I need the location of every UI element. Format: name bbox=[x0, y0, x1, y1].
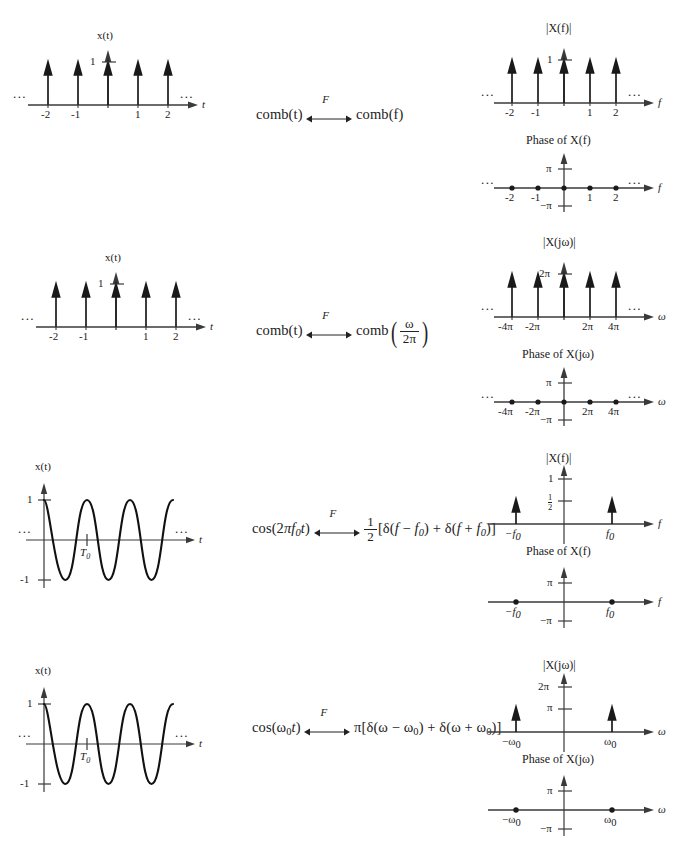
transform-pair-row-1: x(t) t 1 -2 -1 1 2 ... ... comb(t) F com… bbox=[0, 0, 676, 216]
row1-phase-xtick--2: -2 bbox=[505, 191, 514, 203]
row3-magnitude-ytick-1: 1 bbox=[548, 472, 554, 484]
transform-pair-row-2: x(t) t 1 -2 -1 1 2 ... ... comb(t) F com… bbox=[0, 216, 676, 432]
left-paren: ( bbox=[391, 318, 397, 346]
row1-phase-ytick-negpi: −π bbox=[540, 199, 552, 211]
row2-fraction-numerator: ω bbox=[400, 317, 419, 331]
row2-time-left-ellipsis: ... bbox=[21, 308, 35, 324]
row1-phase-xtick-1: 1 bbox=[587, 191, 593, 203]
row2-magnitude-right-ellipsis: ... bbox=[628, 298, 642, 314]
row2-time-xtick--1: -1 bbox=[79, 330, 88, 342]
row2-magnitude-left-ellipsis: ... bbox=[481, 298, 495, 314]
row3-phase-xtick--f0: −f0 bbox=[505, 605, 521, 620]
row4-time-right-ellipsis: ... bbox=[175, 725, 189, 741]
row4-operator-label: F bbox=[320, 706, 327, 718]
row3-time-y-label: x(t) bbox=[35, 460, 51, 472]
row3-time-plot: x(t) t 1 -1 T0 ... ... bbox=[18, 470, 218, 600]
row1-equation-lhs: comb(t) bbox=[256, 106, 303, 122]
fourier-arrow-icon: F bbox=[304, 721, 350, 736]
row1-magnitude-xtick--2: -2 bbox=[505, 106, 514, 118]
row3-magnitude-ytick-half: 12 bbox=[548, 493, 552, 512]
row1-magnitude-left-ellipsis: ... bbox=[481, 84, 495, 100]
row3-equation-lhs: cos(2πf0t) bbox=[252, 520, 310, 536]
cos-phase-svg bbox=[486, 562, 676, 640]
row2-magnitude-xtick--4pi: -4π bbox=[498, 320, 513, 332]
row1-time-xtick--1: -1 bbox=[71, 108, 80, 120]
row4-time-ytick-1: 1 bbox=[27, 697, 33, 709]
row4-time-y-label: x(t) bbox=[35, 664, 51, 676]
row4-phase-ytick-pi: π bbox=[547, 784, 553, 796]
row3-phase-xtick-f0: f0 bbox=[606, 605, 614, 620]
double-arrow-icon bbox=[306, 330, 352, 340]
row1-time-xtick-1: 1 bbox=[135, 108, 141, 120]
row2-time-xtick-2: 2 bbox=[173, 330, 179, 342]
row4-equation-rhs-body: π[δ(ω − ω0) + δ(ω + ω0)] bbox=[354, 719, 501, 735]
row4-phase-title: Phase of X(jω) bbox=[522, 752, 594, 767]
row2-phase-x-label: ω bbox=[658, 395, 666, 407]
row2-equation-rhs-prefix: comb bbox=[356, 322, 389, 338]
row2-operator-label: F bbox=[322, 309, 329, 321]
row4-phase-plot: Phase of X(jω) ω π −π −ω0 ω0 bbox=[486, 770, 676, 848]
row1-phase-title: Phase of X(f) bbox=[526, 133, 591, 148]
row2-phase-xtick-2pi: 2π bbox=[582, 405, 593, 417]
row3-phase-plot: Phase of X(f) f π −π −f0 f0 bbox=[486, 562, 676, 640]
row2-magnitude-plot: |X(jω)| ω 2π -4π -2π 2π 4π ... ... bbox=[486, 252, 676, 342]
row1-magnitude-title: |X(f)| bbox=[546, 21, 571, 36]
row1-equation-rhs: comb(f) bbox=[356, 106, 403, 122]
row1-time-x-label: t bbox=[202, 98, 205, 110]
row1-time-y-label: x(t) bbox=[97, 29, 113, 41]
comb-phase-svg-2 bbox=[486, 364, 676, 436]
cos-phase-svg-2 bbox=[486, 770, 676, 848]
row3-magnitude-xtick--f0: −f0 bbox=[505, 527, 521, 542]
row2-phase-xtick--4pi: -4π bbox=[498, 405, 513, 417]
row2-magnitude-title: |X(jω)| bbox=[543, 235, 576, 250]
transform-pair-row-3: x(t) t 1 -1 T0 ... ... cos(2πf0t) F 12[δ… bbox=[0, 432, 676, 648]
row2-phase-left-ellipsis: ... bbox=[481, 386, 495, 402]
row3-time-ytick--1: -1 bbox=[20, 573, 29, 585]
comb-phase-svg bbox=[486, 150, 676, 222]
row2-phase-xtick-4pi: 4π bbox=[608, 405, 619, 417]
row3-time-ytick-1: 1 bbox=[27, 493, 33, 505]
row4-magnitude-xtick-w0: ω0 bbox=[604, 735, 617, 750]
row4-phase-xtick-w0: ω0 bbox=[604, 813, 617, 828]
row1-time-left-ellipsis: ... bbox=[13, 86, 27, 102]
transform-pair-row-4: x(t) t 1 -1 T0 ... ... cos(ω0t) F π[δ(ω … bbox=[0, 648, 676, 864]
row4-time-plot: x(t) t 1 -1 T0 ... ... bbox=[18, 674, 218, 804]
row3-half-den: 2 bbox=[364, 529, 377, 544]
row4-magnitude-ytick-2pi: 2π bbox=[538, 680, 549, 692]
row2-time-right-ellipsis: ... bbox=[188, 308, 202, 324]
comb-magnitude-svg bbox=[486, 38, 676, 128]
row3-time-left-ellipsis: ... bbox=[18, 521, 32, 537]
row2-magnitude-xtick--2pi: -2π bbox=[525, 320, 540, 332]
row3-phase-x-label: f bbox=[658, 595, 661, 607]
row1-magnitude-right-ellipsis: ... bbox=[628, 84, 642, 100]
row3-phase-ytick-pi: π bbox=[547, 576, 553, 588]
fourier-arrow-icon: F bbox=[306, 108, 352, 123]
row1-magnitude-x-label: f bbox=[658, 96, 661, 108]
row2-phase-title: Phase of X(jω) bbox=[522, 347, 594, 362]
row1-phase-left-ellipsis: ... bbox=[481, 172, 495, 188]
row2-time-ytick-1: 1 bbox=[98, 277, 104, 289]
row2-magnitude-ytick-2pi: 2π bbox=[539, 267, 550, 279]
row3-half-num: 1 bbox=[364, 515, 377, 529]
row3-time-period-label: T0 bbox=[80, 546, 90, 561]
row1-phase-x-label: f bbox=[658, 181, 661, 193]
row3-magnitude-x-label: f bbox=[658, 517, 661, 529]
row1-magnitude-xtick--1: -1 bbox=[531, 106, 540, 118]
row1-phase-xtick--1: -1 bbox=[531, 191, 540, 203]
row1-equation: comb(t) F comb(f) bbox=[256, 106, 403, 123]
row2-magnitude-xtick-2pi: 2π bbox=[582, 320, 593, 332]
double-arrow-icon bbox=[304, 727, 350, 737]
row2-phase-right-ellipsis: ... bbox=[628, 386, 642, 402]
row2-magnitude-x-label: ω bbox=[658, 310, 666, 322]
row4-time-ytick--1: -1 bbox=[20, 777, 29, 789]
row1-magnitude-xtick-1: 1 bbox=[587, 106, 593, 118]
row4-magnitude-plot: |X(jω)| ω 2π π −ω0 ω0 bbox=[486, 660, 676, 760]
row4-magnitude-xtick--w0: −ω0 bbox=[502, 735, 521, 750]
double-arrow-icon bbox=[306, 114, 352, 124]
row3-magnitude-xtick-f0: f0 bbox=[606, 527, 614, 542]
row4-magnitude-ytick-pi: π bbox=[547, 701, 553, 713]
right-paren: ) bbox=[422, 318, 428, 346]
row4-phase-xtick--w0: −ω0 bbox=[502, 813, 521, 828]
row1-operator-label: F bbox=[322, 93, 329, 105]
row1-phase-xtick-2: 2 bbox=[613, 191, 619, 203]
